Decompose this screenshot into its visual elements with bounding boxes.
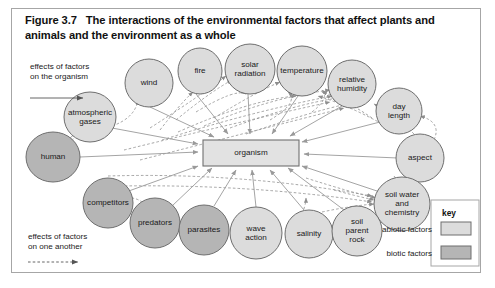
legend-effects-on-one-another: effects of factors on one another — [28, 232, 87, 251]
node-salinity — [285, 210, 333, 258]
node-temperature — [277, 46, 327, 96]
node-atmospheric-gases — [64, 92, 116, 142]
key-title: key — [442, 208, 456, 218]
figure-container: Figure 3.7The interactions of the enviro… — [0, 0, 495, 288]
key-label-biotic: biotic factors — [352, 249, 432, 258]
legend-effects-on-organism: effects of factors on the organism — [30, 62, 89, 81]
node-parasites — [179, 205, 229, 255]
node-relative-humidity — [328, 60, 376, 108]
key-swatch-abiotic — [441, 222, 471, 235]
key-swatch-biotic — [441, 246, 471, 259]
node-day-length — [376, 88, 422, 134]
organism-box — [203, 140, 299, 166]
node-soil-water-chemistry — [374, 177, 430, 231]
node-predators — [130, 198, 180, 248]
node-wind — [125, 59, 173, 107]
node-human — [26, 132, 80, 182]
node-competitors — [83, 178, 133, 228]
node-wave-action — [230, 207, 282, 259]
node-aspect — [396, 134, 444, 182]
key-label-abiotic: abiotic factors — [352, 225, 432, 234]
node-solar-radiation — [225, 44, 275, 94]
node-fire — [178, 48, 222, 94]
